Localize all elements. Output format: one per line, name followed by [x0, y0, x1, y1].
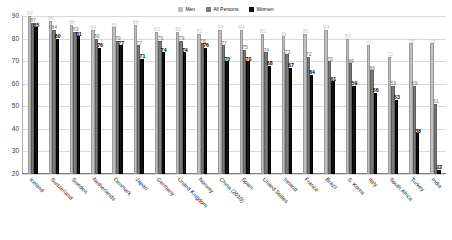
bar-value-label: 84: [324, 25, 330, 30]
legend-swatch-all-persons: [206, 7, 211, 12]
bar-value-label: 38: [415, 129, 421, 134]
bar-value-label: 85: [112, 23, 118, 28]
bar-group: 817367: [276, 16, 297, 174]
legend-item-all-persons: All Persons: [206, 7, 238, 12]
y-axis-tick-label: 40: [12, 126, 19, 133]
bar-value-label: 76: [203, 43, 209, 48]
bar-group: 827468: [255, 16, 276, 174]
bar-value-label: 72: [306, 52, 312, 57]
bar-women: 22: [437, 170, 440, 175]
bar-value-label: 79: [157, 36, 163, 41]
bar-women: 71: [140, 59, 143, 174]
bar-value-label: 82: [302, 29, 308, 34]
bar-value-label: 85: [34, 23, 40, 28]
bar-group: 847770: [213, 16, 234, 174]
bar-value-label: 59: [352, 81, 358, 86]
bar-value-label: 68: [267, 61, 273, 66]
bar-group: 827264: [298, 16, 319, 174]
x-label-cell: Iceland: [22, 176, 43, 238]
bar-group: 888480: [43, 16, 64, 174]
y-axis-tick-label: 20: [12, 171, 19, 178]
bar-women: 70: [225, 61, 228, 174]
bar-value-label: 84: [239, 25, 245, 30]
bar-group: 725953: [382, 16, 403, 174]
bar-value-label: 81: [76, 32, 82, 37]
x-axis-label: Iceland: [28, 177, 45, 194]
bar-women: 76: [204, 48, 207, 174]
bar-group: 908785: [22, 16, 43, 174]
bar-value-label: 77: [118, 41, 124, 46]
x-label-cell: Brazil: [319, 176, 340, 238]
x-axis-label: Spain: [240, 177, 254, 191]
chart-root: Men All Persons Women 9080706050403020 9…: [0, 0, 452, 240]
bar-group: 857977: [107, 16, 128, 174]
bar-women: 53: [395, 100, 398, 174]
bar-group: 837974: [170, 16, 191, 174]
bar-value-label: 86: [133, 20, 139, 25]
bar-value-label: 64: [309, 70, 315, 75]
x-label-cell: Turkey: [404, 176, 425, 238]
bar-value-label: 22: [436, 165, 442, 170]
bar-group: 776656: [361, 16, 382, 174]
x-axis-label: Japan: [134, 177, 149, 192]
y-axis-tick-label: 50: [12, 103, 19, 110]
legend-label-women: Women: [256, 7, 273, 12]
x-label-cell: Ireland: [276, 176, 297, 238]
legend-swatch-women: [249, 7, 254, 12]
bar-women: 85: [34, 27, 37, 174]
bar-value-label: 70: [224, 57, 230, 62]
bar-group: 847061: [319, 16, 340, 174]
bar-women: 80: [56, 39, 59, 174]
bar-group: 785122: [425, 16, 446, 174]
x-label-cell: Spain: [234, 176, 255, 238]
x-label-cell: Japan: [128, 176, 149, 238]
bar-value-label: 66: [369, 66, 375, 71]
bar-value-label: 88: [48, 16, 54, 21]
bar-value-label: 70: [327, 57, 333, 62]
bar-value-label: 84: [51, 25, 57, 30]
bar-value-label: 59: [412, 81, 418, 86]
bar-value-label: 51: [433, 99, 439, 104]
x-label-cell: S. Korea: [340, 176, 361, 238]
bar-value-label: 82: [196, 29, 202, 34]
bar-value-label: 67: [288, 63, 294, 68]
bar-value-label: 81: [281, 32, 287, 37]
bar-value-label: 61: [330, 77, 336, 82]
x-label-cell: Sweden: [64, 176, 85, 238]
bar-value-label: 77: [366, 41, 372, 46]
x-axis-label: Ireland: [282, 177, 298, 193]
bar-value-label: 75: [242, 45, 248, 50]
bar-women: 59: [352, 86, 355, 174]
bar-value-label: 74: [263, 48, 269, 53]
bar-group: 827876: [192, 16, 213, 174]
x-label-cell: United Kingdom: [170, 176, 191, 238]
bar-value-label: 59: [391, 81, 397, 86]
y-axis-tick-label: 80: [12, 35, 19, 42]
bar-value-label: 70: [246, 57, 252, 62]
bar-value-label: 72: [387, 52, 393, 57]
bar-value-label: 74: [182, 48, 188, 53]
legend-label-all-persons: All Persons: [213, 7, 238, 12]
bar-women: 38: [416, 133, 419, 174]
chart-legend: Men All Persons Women: [0, 7, 452, 12]
y-axis-tick-label: 90: [12, 13, 19, 20]
x-label-cell: Germany: [149, 176, 170, 238]
x-label-cell: Netherlands: [86, 176, 107, 238]
x-axis-label: Brazil: [324, 177, 338, 191]
bar-group: 867771: [128, 16, 149, 174]
bar-value-label: 80: [55, 34, 61, 39]
bar-value-label: 76: [97, 43, 103, 48]
plot-area: 9087858884808683818480768579778677718379…: [22, 16, 446, 174]
y-axis-tick-label: 60: [12, 80, 19, 87]
bar-value-label: 78: [408, 39, 414, 44]
bar-group: 785938: [404, 16, 425, 174]
bar-value-label: 79: [179, 36, 185, 41]
x-label-cell: Switzerland: [43, 176, 64, 238]
bar-value-label: 82: [260, 29, 266, 34]
bar-value-label: 84: [90, 25, 96, 30]
bar-women: 67: [289, 68, 292, 174]
bar-women: 77: [119, 45, 122, 174]
bar-value-label: 84: [218, 25, 224, 30]
x-axis-category-labels: IcelandSwitzerlandSwedenNetherlandsDenma…: [22, 176, 446, 238]
bar-value-label: 80: [94, 34, 100, 39]
